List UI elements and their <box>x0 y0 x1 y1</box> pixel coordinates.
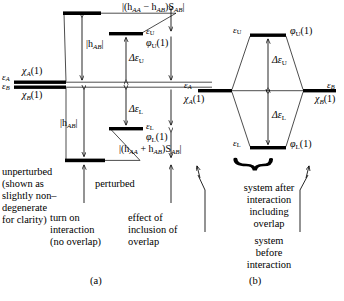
caption-before-line-3: interaction <box>210 259 328 271</box>
caption-unperturbed-line-3: slightly non– <box>2 190 80 202</box>
correlation-b-B-to-U <box>286 36 303 89</box>
label-epsilon-U-a: εU <box>146 27 154 37</box>
correlation-line-up-a <box>64 14 66 82</box>
panel-label-b: (b) <box>249 276 261 287</box>
label-phi-L-b: φL(1) <box>290 139 312 151</box>
level-bar-epsilon-A-b <box>198 89 232 92</box>
level-bar-epsilon-U-a <box>109 32 143 35</box>
label-epsilon-B-b: εB <box>327 81 335 91</box>
label-h-AB-upper: |hAB| <box>86 39 104 51</box>
caption-after-line-2: interaction <box>210 194 328 206</box>
caption-turn-on-line-2: interaction <box>50 224 122 236</box>
level-bar-epsilon-L-a <box>109 127 143 130</box>
level-bar-no-overlap-lower <box>65 159 105 163</box>
label-overlap-correction-upper: |(hAA − hAB)SAB| <box>122 2 185 14</box>
caption-turn-on-line-3: (no overlap) <box>50 236 122 248</box>
caption-perturbed: perturbed <box>95 178 135 190</box>
caption-after-line-4: overlap <box>210 218 328 230</box>
mo-energy-diagram-figure: εA εB χA(1) χB(1) |hAB| |hAB| |(hAA − hA… <box>0 0 344 301</box>
label-chi-B-b: χB(1) <box>315 94 335 106</box>
caption-after-line-3: including <box>210 206 328 218</box>
caption-before-line-2: before <box>210 247 328 259</box>
caption-effect-line-2: inclusion of <box>128 224 200 236</box>
caption-effect-line-1: effect of <box>128 212 200 224</box>
level-bar-unperturbed-A <box>14 81 66 84</box>
caption-system-before-interaction: system before interaction <box>210 235 328 271</box>
correlation-b-A-to-U <box>232 36 250 89</box>
panel-label-a: (a) <box>90 276 102 287</box>
label-chi-A-a: χA(1) <box>22 66 42 78</box>
level-bar-epsilon-U-b <box>250 34 286 37</box>
caption-before-line-1: system <box>210 235 328 247</box>
label-overlap-correction-lower: |(hAA + hAB)SAB| <box>119 144 182 156</box>
caption-turn-on-line-1: turn on <box>50 212 122 224</box>
label-epsilon-L-b: εL <box>233 139 241 149</box>
label-epsilon-B-a: εB <box>2 82 10 92</box>
caption-unperturbed-line-1: unperturbed <box>2 166 80 178</box>
label-phi-U-a: φU(1) <box>146 38 168 50</box>
label-delta-epsilon-L-b: ΔεL <box>272 110 286 122</box>
caption-effect-line-3: overlap <box>128 236 200 248</box>
level-bar-epsilon-L-b <box>250 146 286 149</box>
label-phi-U-b: φU(1) <box>290 26 312 38</box>
caption-unperturbed-line-2: (shown as <box>2 178 80 190</box>
brace-system-after-interaction <box>235 159 271 171</box>
caption-system-after-interaction: system after interaction including overl… <box>210 182 328 230</box>
label-delta-epsilon-U-b: ΔεU <box>272 55 287 67</box>
label-phi-L-a: φL(1) <box>146 132 168 144</box>
label-delta-epsilon-L-a: ΔεL <box>129 104 143 116</box>
caption-after-line-1: system after <box>210 182 328 194</box>
caption-effect-of-overlap: effect of inclusion of overlap <box>128 212 200 248</box>
label-delta-epsilon-U-a: ΔεU <box>129 53 144 65</box>
label-epsilon-U-b: εU <box>233 26 241 36</box>
label-h-AB-lower: |hAB| <box>60 118 78 130</box>
label-epsilon-A-b: εA <box>184 81 192 91</box>
label-chi-A-b: χA(1) <box>184 94 204 106</box>
level-bar-no-overlap-upper <box>63 11 101 15</box>
caption-turn-on-interaction: turn on interaction (no overlap) <box>50 212 122 248</box>
label-chi-B-a: χB(1) <box>22 90 42 102</box>
